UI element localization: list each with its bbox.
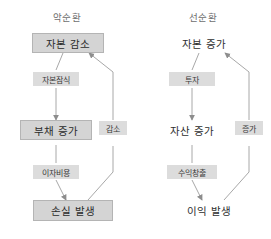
node-loss-occurrence[interactable]: 손실 발생 — [33, 200, 113, 221]
edge-label-decrease: 감소 — [99, 121, 127, 135]
edge-label-increase: 증가 — [235, 121, 263, 135]
column-header-vicious: 악순환 — [53, 10, 81, 24]
node-debt-increase[interactable]: 부채 증가 — [20, 120, 92, 140]
node-profit-occurrence[interactable]: 이익 발생 — [169, 200, 249, 221]
edge-capital-decrease-to-debt-increase — [56, 53, 63, 120]
edge-label-capital-erosion: 자본잠식 — [33, 72, 79, 86]
edge-capital-increase-to-asset-increase — [192, 53, 199, 120]
edge-label-revenue-generation: 수익창출 — [167, 165, 217, 179]
edge-label-interest-expense: 이자비용 — [33, 165, 79, 179]
node-capital-decrease[interactable]: 자본 감소 — [32, 33, 104, 53]
edge-label-investment: 투자 — [169, 72, 215, 86]
column-header-virtuous: 선순환 — [189, 10, 217, 24]
node-capital-increase[interactable]: 자본 증가 — [168, 33, 240, 53]
diagram-canvas: 악순환 선순환 자본 감소 부채 증가 손실 발생 자본잠식 이자비용 감소 자… — [0, 0, 271, 239]
node-asset-increase[interactable]: 자산 증가 — [156, 120, 228, 140]
